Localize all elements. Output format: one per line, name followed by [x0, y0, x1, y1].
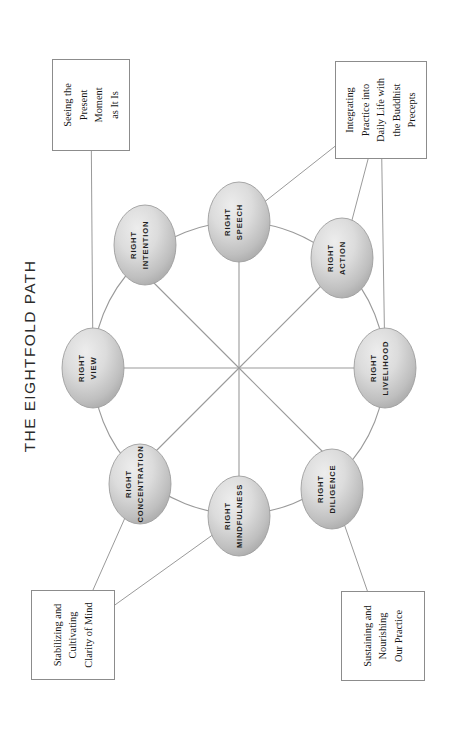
- caption-seeing-present-moment: Seeing thePresentMomentas It Is: [52, 59, 130, 151]
- caption-line-5: Precepts: [404, 92, 420, 127]
- caption-line-1: Integrating: [342, 87, 358, 133]
- caption-line-1: Seeing the: [60, 83, 76, 127]
- node-ellipse-right-livelihood[interactable]: [354, 328, 416, 408]
- caption-integrating-practice: IntegratingPractice intoDaily Life witht…: [335, 61, 427, 159]
- node-ellipse-right-diligence[interactable]: [301, 449, 363, 529]
- node-ellipse-right-intention[interactable]: [114, 205, 176, 285]
- caption-line-4: the Buddhist: [389, 84, 405, 137]
- caption-line-2: Nourishing: [375, 613, 391, 660]
- node-ellipse-right-mindfulness[interactable]: [208, 476, 270, 556]
- node-ellipse-right-concentration[interactable]: [109, 444, 171, 524]
- caption-line-2: Practice into: [358, 84, 374, 136]
- node-ellipse-right-speech[interactable]: [208, 182, 270, 262]
- caption-stabilizing-clarity: Stabilizing andCultivatingClarity of Min…: [31, 590, 115, 680]
- node-ellipse-right-action[interactable]: [311, 218, 373, 298]
- node-ellipse-right-view[interactable]: [62, 328, 124, 408]
- caption-line-3: Clarity of Mind: [81, 602, 97, 667]
- caption-line-2: Cultivating: [65, 612, 81, 659]
- caption-line-3: Moment: [91, 87, 107, 122]
- caption-line-1: Sustaining and: [360, 605, 376, 666]
- diagram-page: THE EIGHTFOLD PATH RIGHTVIEWRIGHTINTENTI…: [0, 0, 460, 743]
- caption-line-3: Our Practice: [391, 610, 407, 662]
- caption-line-4: as It Is: [107, 91, 123, 119]
- caption-line-2: Present: [76, 90, 92, 121]
- caption-line-1: Stabilizing and: [50, 604, 66, 667]
- caption-sustaining-nourishing: Sustaining andNourishingOur Practice: [341, 591, 425, 681]
- caption-line-3: Daily Life with: [373, 78, 389, 142]
